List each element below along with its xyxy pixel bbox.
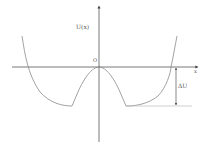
- y-axis-label: U(x): [76, 24, 89, 30]
- potential-energy-diagram: [0, 0, 205, 150]
- origin-label: O: [93, 58, 97, 63]
- delta-u-label: ΔU: [178, 83, 187, 89]
- x-axis-label: x: [194, 69, 197, 74]
- potential-curve: [22, 36, 177, 106]
